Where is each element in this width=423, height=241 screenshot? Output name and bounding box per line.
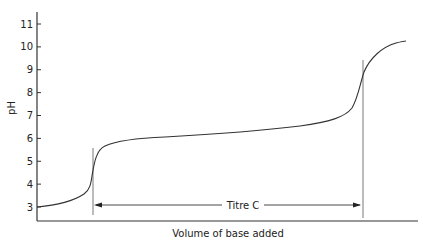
x-axis-label: Volume of base added (172, 228, 284, 239)
y-ticks: 34567891011 (20, 19, 41, 213)
arrowhead-right-icon (353, 203, 361, 208)
y-tick-label: 3 (27, 202, 33, 213)
y-tick-label: 5 (27, 156, 33, 167)
y-tick-label: 6 (27, 133, 33, 144)
y-tick-label: 7 (27, 110, 33, 121)
y-tick-label: 10 (20, 41, 33, 52)
y-axis-label: pH (6, 101, 17, 115)
arrowhead-left-icon (94, 203, 102, 208)
y-tick-label: 11 (20, 19, 33, 30)
y-tick-label: 4 (27, 179, 33, 190)
titration-chart: 34567891011 pH Volume of base added Titr… (0, 0, 423, 241)
y-tick-label: 8 (27, 87, 33, 98)
y-tick-label: 9 (27, 64, 33, 75)
titration-curve (37, 41, 406, 207)
titre-label: Titre C (226, 200, 260, 211)
